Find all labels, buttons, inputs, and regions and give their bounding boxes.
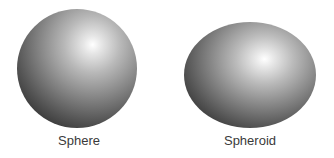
sphere-shape	[17, 9, 137, 128]
spheroid-shape	[184, 22, 316, 128]
spheroid-label: Spheroid	[190, 133, 310, 148]
sphere-label: Sphere	[19, 133, 139, 148]
